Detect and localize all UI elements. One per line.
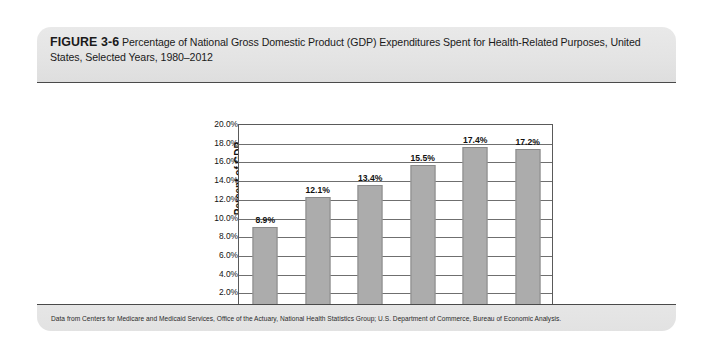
y-axis-tick-label: 8.0%: [192, 231, 238, 241]
bar[interactable]: [463, 147, 488, 310]
figure-caption-line: FIGURE 3-6 Percentage of National Gross …: [50, 35, 663, 64]
figure-footer: Data from Centers for Medicare and Medic…: [37, 304, 676, 331]
y-axis-tick-label: 10.0%: [192, 213, 238, 223]
bar-value-label: 15.5%: [411, 153, 435, 163]
chart-body: Percent of GDP 20.0%18.0%16.0%14.0%12.0%…: [37, 83, 676, 304]
bar-slot: 15.5%: [397, 125, 450, 310]
bar[interactable]: [358, 185, 383, 310]
y-axis-tick-label: 2.0%: [192, 287, 238, 297]
bar-slot: 12.1%: [292, 125, 345, 310]
bar-slot: 17.2%: [502, 125, 555, 310]
y-axis-tick-label: 14.0%: [192, 175, 238, 185]
bar[interactable]: [253, 227, 278, 310]
bar[interactable]: [305, 197, 330, 310]
y-axis-tick-label: 4.0%: [192, 269, 238, 279]
y-axis-tick-label: 6.0%: [192, 250, 238, 260]
y-axis-tick-label: 16.0%: [192, 156, 238, 166]
bar-value-label: 17.2%: [516, 137, 540, 147]
figure-caption-text: Percentage of National Gross Domestic Pr…: [50, 36, 641, 63]
y-axis-tick-label: 12.0%: [192, 194, 238, 204]
bar-chart: Percent of GDP 20.0%18.0%16.0%14.0%12.0%…: [37, 83, 676, 304]
y-axis-tick-label: 20.0%: [192, 119, 238, 129]
figure-number: FIGURE 3-6: [50, 35, 119, 49]
y-axis-tick-label: 18.0%: [192, 138, 238, 148]
figure-header: FIGURE 3-6 Percentage of National Gross …: [37, 27, 676, 83]
bar-value-label: 8.9%: [255, 215, 275, 225]
bar[interactable]: [515, 149, 540, 310]
bar-slot: 17.4%: [449, 125, 502, 310]
bars-layer: 8.9%12.1%13.4%15.5%17.4%17.2%: [239, 125, 552, 310]
bar-value-label: 13.4%: [358, 173, 382, 183]
bar-slot: 13.4%: [344, 125, 397, 310]
bar-value-label: 12.1%: [306, 185, 330, 195]
plot-area: 8.9%12.1%13.4%15.5%17.4%17.2%: [238, 124, 553, 311]
figure-card: FIGURE 3-6 Percentage of National Gross …: [37, 27, 676, 331]
source-note: Data from Centers for Medicare and Medic…: [51, 315, 561, 322]
y-axis-tick-labels: 20.0%18.0%16.0%14.0%12.0%10.0%8.0%6.0%4.…: [192, 124, 238, 311]
bar[interactable]: [410, 165, 435, 310]
bar-slot: 8.9%: [239, 125, 292, 310]
bar-value-label: 17.4%: [463, 135, 487, 145]
